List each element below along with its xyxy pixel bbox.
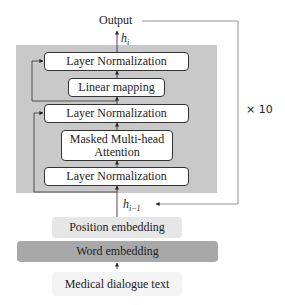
h-out-label: hi <box>121 31 129 47</box>
layer-normalization-bottom: Layer Normalization <box>44 167 189 186</box>
repeat-count-label: × 10 <box>246 103 273 116</box>
linear-mapping-box: Linear mapping <box>68 78 165 97</box>
word-embedding-box: Word embedding <box>17 241 218 262</box>
h-in-label: hi−1 <box>123 197 141 213</box>
layer-normalization-top: Layer Normalization <box>44 52 189 71</box>
output-label: Output <box>99 13 132 28</box>
layer-normalization-middle: Layer Normalization <box>44 104 189 123</box>
medical-dialogue-text-input: Medical dialogue text <box>52 272 182 296</box>
position-embedding-box: Position embedding <box>52 217 182 238</box>
masked-multi-head-attention-box: Masked Multi-head Attention <box>61 130 173 161</box>
